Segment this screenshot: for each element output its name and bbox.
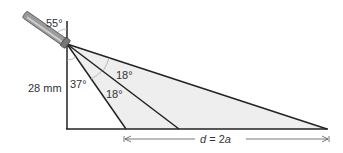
label-eq: = 2 [206,133,225,145]
arc-37 [67,57,76,60]
label-37-deg: 37° [70,78,87,90]
label-height: 28 mm [28,82,62,94]
light-beam-diagram: 55° 28 mm 37° 18° 18° d = 2a [0,0,343,153]
label-55-deg: 55° [46,17,63,29]
label-18-lower: 18° [106,88,123,100]
label-a: a [225,133,231,145]
label-distance: d = 2a [200,133,231,145]
label-18-upper: 18° [116,69,133,81]
